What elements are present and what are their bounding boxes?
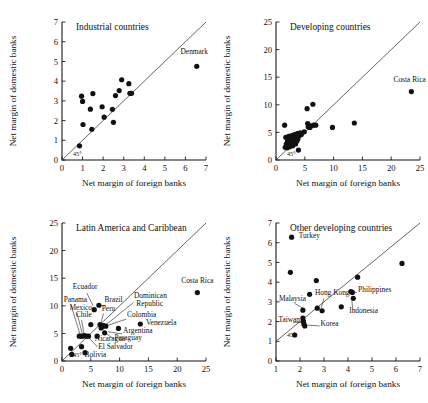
svg-text:5: 5 <box>54 57 58 67</box>
data-point <box>68 346 73 351</box>
svg-text:6: 6 <box>183 163 188 173</box>
svg-text:7: 7 <box>418 364 423 374</box>
svg-text:15: 15 <box>49 273 58 283</box>
data-point <box>80 99 85 104</box>
svg-text:0: 0 <box>54 356 58 366</box>
y-axis-title: Net margin of domestic banks <box>8 236 18 347</box>
point-label: Peru <box>102 304 116 313</box>
data-point <box>300 308 305 313</box>
svg-text:1: 1 <box>80 163 84 173</box>
x-axis-title: Net margin of foreign banks <box>296 379 400 389</box>
point-label: Chile <box>76 310 93 319</box>
svg-text:4: 4 <box>346 364 351 374</box>
svg-text:0: 0 <box>268 356 272 366</box>
svg-text:0: 0 <box>54 155 58 165</box>
data-point <box>282 123 287 128</box>
x-axis-title: Net margin of foreign banks <box>82 379 186 389</box>
svg-text:2: 2 <box>54 116 58 126</box>
panel-title: Developing countries <box>290 22 371 32</box>
data-point <box>351 296 356 301</box>
svg-text:25: 25 <box>416 163 425 173</box>
svg-text:20: 20 <box>387 163 396 173</box>
svg-text:0: 0 <box>268 155 272 165</box>
point-label: Hong Kong <box>315 288 350 297</box>
svg-text:3: 3 <box>122 163 126 173</box>
angle-annotation: 45° <box>287 150 296 157</box>
angle-annotation: 45° <box>73 150 82 157</box>
panel-industrial: 012345670123456745°DenmarkIndustrial cou… <box>0 0 214 201</box>
panel-title: Latin America and Caribbean <box>76 223 187 233</box>
svg-text:5: 5 <box>54 329 58 339</box>
data-point <box>315 306 320 311</box>
y-axis-title: Net margin of domestic banks <box>8 35 18 146</box>
svg-text:0: 0 <box>60 364 64 374</box>
data-point <box>102 115 107 120</box>
data-point <box>194 64 199 69</box>
point-label: Denmark <box>181 47 209 56</box>
svg-text:3: 3 <box>322 364 326 374</box>
data-point <box>319 308 324 313</box>
svg-text:15: 15 <box>144 364 153 374</box>
data-point <box>195 290 200 295</box>
data-point <box>89 127 94 132</box>
data-point <box>126 81 131 86</box>
data-point <box>350 290 355 295</box>
point-label: Malaysia <box>279 294 307 303</box>
data-point <box>79 344 84 349</box>
data-point <box>110 107 115 112</box>
panel-other-developing: 12345670123456745°TurkeyMalaysiaHong Kon… <box>214 201 428 402</box>
svg-text:25: 25 <box>202 364 211 374</box>
point-label: Brazil <box>105 295 123 304</box>
svg-text:4: 4 <box>268 277 273 287</box>
point-label: Costa Rica <box>181 276 214 285</box>
data-point <box>90 91 95 96</box>
data-point <box>92 307 97 312</box>
data-point <box>88 322 93 327</box>
data-point <box>409 89 414 94</box>
data-point <box>111 120 116 125</box>
svg-text:3: 3 <box>54 96 58 106</box>
svg-text:5: 5 <box>163 163 167 173</box>
point-label: Ecuador <box>73 282 98 291</box>
svg-text:20: 20 <box>49 246 58 256</box>
svg-text:0: 0 <box>60 163 64 173</box>
svg-text:1: 1 <box>268 336 272 346</box>
svg-text:2: 2 <box>268 317 272 327</box>
data-point <box>302 323 307 328</box>
svg-text:4: 4 <box>54 76 59 86</box>
svg-text:25: 25 <box>49 218 58 228</box>
data-point <box>103 324 108 329</box>
data-point <box>88 107 93 112</box>
data-point <box>307 292 312 297</box>
svg-text:20: 20 <box>263 45 272 55</box>
panel-developing: 0510152025051015202545°Costa RicaDevelop… <box>214 0 428 201</box>
data-point <box>129 91 134 96</box>
svg-text:10: 10 <box>329 163 338 173</box>
data-point <box>289 235 294 240</box>
data-point <box>305 106 310 111</box>
point-label: Philippines <box>358 285 391 294</box>
svg-text:10: 10 <box>263 100 272 110</box>
scatter-figure: 012345670123456745°DenmarkIndustrial cou… <box>0 0 428 403</box>
data-point <box>330 125 335 130</box>
svg-text:7: 7 <box>268 218 273 228</box>
data-point <box>86 334 91 339</box>
svg-text:6: 6 <box>268 238 273 248</box>
svg-text:6: 6 <box>54 37 59 47</box>
data-point <box>113 93 118 98</box>
data-point <box>339 304 344 309</box>
data-point <box>119 77 124 82</box>
panel-title: Industrial countries <box>76 22 149 32</box>
svg-text:7: 7 <box>54 17 59 27</box>
x-axis-title: Net margin of foreign banks <box>82 178 186 188</box>
data-point <box>96 303 101 308</box>
data-point <box>314 278 319 283</box>
svg-text:20: 20 <box>173 364 182 374</box>
point-label: Costa Rica <box>394 75 427 84</box>
svg-text:5: 5 <box>370 364 374 374</box>
svg-text:1: 1 <box>274 364 278 374</box>
data-point <box>100 104 105 109</box>
svg-text:1: 1 <box>54 135 58 145</box>
y-axis-title: Net margin of domestic banks <box>222 35 232 146</box>
data-point <box>77 143 82 148</box>
